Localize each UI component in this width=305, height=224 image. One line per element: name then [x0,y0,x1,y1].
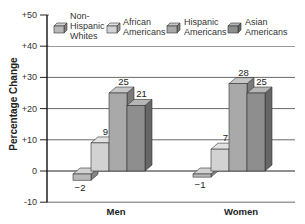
legend-label: Americans [245,27,288,37]
data-label: 25 [256,76,267,87]
bar: −1 [193,168,218,190]
legend-label: African [123,17,151,27]
bar: 25 [247,76,272,171]
y-tick-label: +10 [22,135,37,145]
legend-label: Americans [123,27,166,37]
legend-label: Asian [245,17,268,27]
data-label: 7 [223,132,228,143]
y-tick-label: 0 [32,166,37,176]
y-tick-label: +50 [22,10,37,20]
data-label: −2 [75,182,86,193]
legend-label: Hispanic [184,17,219,27]
y-tick-label: +30 [22,72,37,82]
category-label: Women [224,206,258,217]
data-label: 9 [103,126,108,137]
legend-swatch-icon [167,26,177,33]
legend-label: Hispanic [70,21,105,31]
data-label: 28 [238,67,249,78]
legend-swatch-icon [54,26,64,33]
y-tick-label: +20 [22,104,37,114]
legend-swatch-icon [228,26,238,33]
data-label: 25 [118,76,129,87]
y-tick-label: +40 [22,41,37,51]
bar: −2 [73,168,98,193]
bar-chart: +50+40+30+20+100-10 −292521−172825 Non-H… [0,0,305,224]
y-axis: +50+40+30+20+100-10 [22,10,47,207]
legend-label: Americans [184,27,227,37]
legend-swatch-icon [107,26,117,33]
y-tick-label: -10 [24,197,37,207]
data-label: −1 [195,179,206,190]
data-label: 21 [136,88,147,99]
legend: Non-HispanicWhitesAfricanAmericansHispan… [49,11,295,46]
legend-label: Whites [70,31,98,41]
y-axis-label: Percentage Change [8,57,19,151]
legend-label: Non- [70,11,90,21]
bars: −292521−172825 [73,67,272,194]
x-axis-categories: MenWomen [107,206,259,217]
category-label: Men [107,206,126,217]
